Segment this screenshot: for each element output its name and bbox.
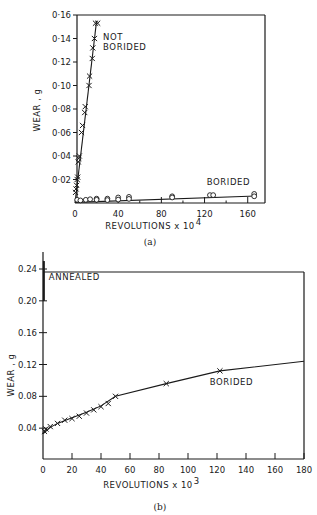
y-axis-label: WEAR , g — [32, 89, 42, 132]
chart-a-wear-vs-revolutions-1e4: 040801201600·020·040·060·080·100·120·140… — [32, 10, 265, 247]
y-tick-label: 0.20 — [18, 296, 37, 306]
y-tick-label: 0·16 — [52, 10, 71, 20]
x-marker — [83, 104, 88, 109]
circle-marker — [78, 198, 83, 203]
x-tick-label: 60 — [125, 465, 136, 475]
y-axis-label: WEAR , g — [6, 354, 16, 397]
x-axis-label-exponent: 3 — [194, 476, 200, 486]
y-tick-label: 0.16 — [18, 328, 37, 338]
series-line — [75, 196, 256, 202]
circle-marker — [88, 197, 93, 202]
circle-marker — [105, 198, 110, 203]
x-tick-label: 0 — [72, 209, 77, 219]
x-tick-label: 180 — [296, 465, 312, 475]
x-tick-label: 80 — [156, 209, 167, 219]
circle-marker — [170, 195, 175, 200]
x-tick-label: 0 — [40, 465, 45, 475]
y-tick-label: 0.12 — [18, 360, 37, 370]
annotation-borided: BORIDED — [207, 177, 250, 187]
x-tick-label: 100 — [180, 465, 196, 475]
x-tick-label: 140 — [238, 465, 254, 475]
annotation-annealed: ANNEALED — [49, 272, 100, 282]
circle-marker — [94, 197, 99, 202]
x-tick-label: 80 — [154, 465, 165, 475]
circle-marker — [127, 196, 132, 201]
x-axis-label: REVOLUTIONS x 10 — [103, 480, 193, 490]
x-axis-label: REVOLUTIONS x 10 — [105, 221, 195, 231]
x-marker — [82, 110, 87, 115]
y-tick-label: 0·02 — [52, 175, 71, 185]
x-tick-label: 160 — [267, 465, 283, 475]
circle-marker — [116, 197, 121, 202]
y-tick-label: 0·04 — [52, 151, 71, 161]
figure-caption: (b) — [154, 502, 167, 512]
series-borided — [42, 361, 304, 434]
y-tick-label: 0·08 — [52, 104, 71, 114]
series-borided — [75, 192, 257, 203]
x-axis-label-exponent: 4 — [196, 217, 202, 227]
y-tick-label: 0.04 — [18, 423, 37, 433]
y-tick-label: 0.24 — [18, 264, 37, 274]
y-tick-label: 0·06 — [52, 128, 71, 138]
y-tick-label: 0.08 — [18, 391, 37, 401]
x-tick-label: 40 — [113, 209, 124, 219]
x-marker — [55, 421, 60, 426]
y-tick-label: 0·10 — [52, 81, 71, 91]
annotation-borided: BORIDED — [210, 377, 253, 387]
annotation-not: NOT — [103, 32, 123, 42]
chart-figure: 040801201600·020·040·060·080·100·120·140… — [0, 0, 317, 515]
x-tick-label: 20 — [67, 465, 78, 475]
x-tick-label: 160 — [240, 209, 256, 219]
chart-b-wear-vs-revolutions-1e3: 0204060801001201401601800.040.080.120.16… — [6, 252, 312, 512]
circle-marker — [252, 194, 257, 199]
figure-caption: (a) — [144, 237, 156, 247]
x-tick-label: 120 — [209, 465, 225, 475]
series-line — [43, 361, 304, 433]
y-tick-label: 0·12 — [52, 57, 71, 67]
annotation-borided: BORIDED — [103, 42, 146, 52]
circle-marker — [211, 193, 216, 198]
x-tick-label: 40 — [96, 465, 107, 475]
y-tick-label: 0·14 — [52, 34, 71, 44]
